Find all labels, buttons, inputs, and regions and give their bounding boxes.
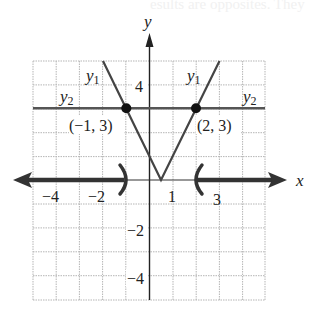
y-axis	[146, 33, 154, 300]
graph-figure: y x y1 y1 y2 y2 (−1, 3) (2, 3) 4 −2 −4 −…	[0, 0, 319, 314]
y2-right-label: y2	[241, 87, 257, 108]
y-tick-neg2: −2	[127, 222, 144, 239]
intersection-point-right	[191, 103, 201, 113]
x-axis-label: x	[295, 171, 304, 190]
y2-left-label: y2	[58, 87, 74, 108]
y-tick-neg4: −4	[127, 270, 144, 287]
solution-left-ray	[13, 172, 124, 188]
point-label-right: (2, 3)	[197, 117, 232, 135]
intersection-point-left	[121, 103, 131, 113]
x-tick-3: 3	[213, 191, 221, 208]
x-tick-neg4: −4	[42, 188, 59, 205]
y-tick-4: 4	[135, 78, 143, 95]
x-tick-neg2: −2	[88, 188, 105, 205]
y1-right-label: y1	[185, 66, 201, 87]
y1-left-label: y1	[84, 66, 100, 87]
y-axis-arrow-icon	[146, 33, 154, 47]
y-axis-label: y	[142, 12, 152, 31]
solution-right-ray	[197, 172, 287, 188]
point-label-left: (−1, 3)	[69, 117, 113, 135]
x-tick-1: 1	[168, 188, 176, 205]
